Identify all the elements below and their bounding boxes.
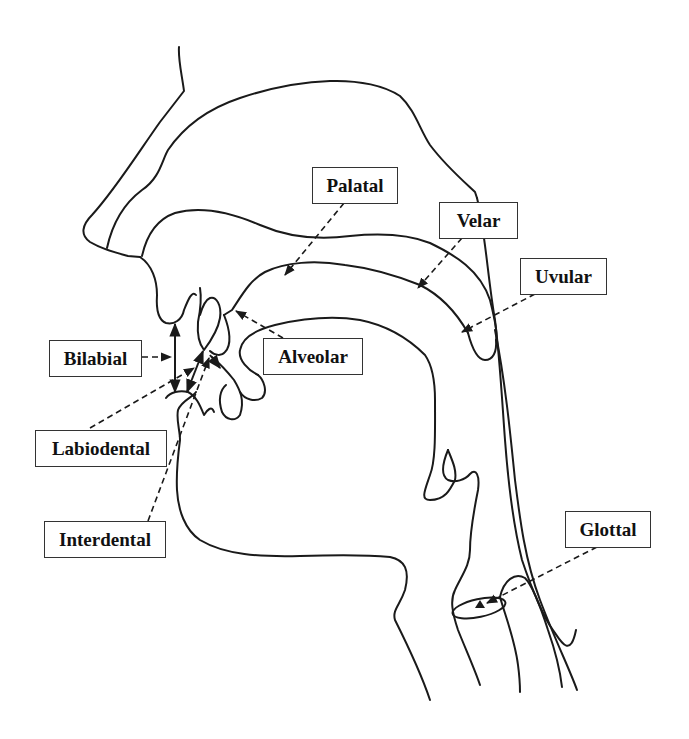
- upper-teeth-outline: [198, 288, 221, 350]
- uvula-outline: [468, 333, 496, 360]
- larynx-front-outline: [443, 450, 480, 685]
- uvular-pointer: [462, 294, 535, 332]
- glottal-pointer: [487, 547, 597, 603]
- label-interdental: Interdental: [44, 521, 166, 558]
- label-palatal: Palatal: [312, 167, 398, 204]
- nose-profile: [83, 47, 184, 257]
- trachea-inner-outline: [500, 597, 520, 692]
- label-uvular: Uvular: [520, 258, 607, 295]
- label-bilabial: Bilabial: [49, 340, 142, 377]
- lower-lip-chin-outline: [166, 391, 430, 700]
- upper-lip-outline: [140, 257, 196, 323]
- nasal-cavity-outline: [107, 81, 477, 248]
- palate-underside-outline: [224, 262, 468, 333]
- label-alveolar: Alveolar: [263, 338, 363, 375]
- lower-teeth-outline: [212, 357, 242, 419]
- neck-back-outline: [495, 330, 577, 690]
- label-labiodental: Labiodental: [35, 430, 167, 467]
- tongue-tip-outline: [240, 375, 265, 400]
- label-glottal: Glottal: [565, 511, 651, 548]
- glottis-marker-icon: [475, 600, 485, 608]
- label-velar: Velar: [439, 202, 518, 239]
- velar-pointer: [418, 238, 462, 288]
